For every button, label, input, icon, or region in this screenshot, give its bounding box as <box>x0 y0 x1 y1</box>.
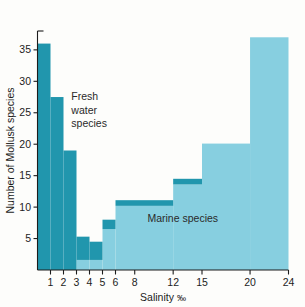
bar-freshwater-5 <box>103 220 116 229</box>
x-axis-ticks: 123456812152024 <box>48 270 295 288</box>
annotation-marine: Marine species <box>147 212 218 224</box>
bar-marine-7 <box>173 184 202 270</box>
x-tick-label-1: 1 <box>48 276 54 288</box>
x-tick-label-5: 5 <box>100 276 106 288</box>
bar-marine-9 <box>250 37 288 270</box>
y-axis-ticks: 5101520253035 <box>19 43 37 244</box>
x-tick-label-6: 6 <box>113 276 119 288</box>
annotation-freshwater: Freshwaterspecies <box>70 90 107 129</box>
bar-marine-3 <box>77 260 90 270</box>
y-tick-label-5: 5 <box>25 232 31 244</box>
bar-freshwater-0 <box>38 44 51 270</box>
bar-freshwater-1 <box>51 97 64 270</box>
bar-marine-4 <box>90 260 103 270</box>
x-tick-label-4: 4 <box>87 276 93 288</box>
annotation-marine-line-0: Marine species <box>147 212 218 224</box>
annotation-freshwater-line-0: Fresh <box>71 90 98 102</box>
bar-freshwater-6 <box>116 200 174 206</box>
chart-canvas: 5101520253035123456812152024Salinity ‰Nu… <box>0 0 305 307</box>
x-tick-label-12: 12 <box>167 276 179 288</box>
x-axis-unit: ‰ <box>177 293 186 303</box>
bar-freshwater-2 <box>64 151 77 271</box>
bar-freshwater-7 <box>173 179 202 185</box>
y-tick-label-35: 35 <box>19 43 31 55</box>
bar-freshwater-4 <box>90 242 103 260</box>
annotation-freshwater-line-2: species <box>71 117 107 129</box>
x-tick-label-3: 3 <box>74 276 80 288</box>
bar-marine-8 <box>202 144 250 270</box>
mollusk-salinity-histogram: 5101520253035123456812152024Salinity ‰Nu… <box>0 0 305 307</box>
y-tick-label-25: 25 <box>19 106 31 118</box>
y-axis-title: Number of Mollusk species <box>4 87 16 213</box>
bar-marine-5 <box>103 229 116 270</box>
y-tick-label-30: 30 <box>19 75 31 87</box>
x-tick-label-15: 15 <box>196 276 208 288</box>
annotation-freshwater-line-1: water <box>70 104 97 116</box>
x-tick-label-2: 2 <box>61 276 67 288</box>
y-tick-label-10: 10 <box>19 201 31 213</box>
x-tick-label-8: 8 <box>132 276 138 288</box>
y-tick-label-20: 20 <box>19 138 31 150</box>
x-axis-title: Salinity ‰ <box>140 291 186 303</box>
marine-series <box>77 37 289 270</box>
x-tick-label-24: 24 <box>283 276 295 288</box>
x-tick-label-20: 20 <box>244 276 256 288</box>
bar-freshwater-3 <box>77 237 90 260</box>
y-tick-label-15: 15 <box>19 169 31 181</box>
